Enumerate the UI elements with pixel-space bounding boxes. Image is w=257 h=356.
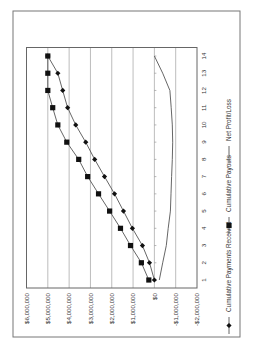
square-marker [139, 260, 144, 265]
period-tick-label: 5 [200, 209, 207, 213]
square-marker [76, 157, 81, 162]
period-tick-label: 3 [200, 243, 207, 247]
square-marker [96, 191, 101, 196]
value-axis-tick-labels: -$2,000,000-$1,000,000$0$1,000,000$2,000… [23, 292, 201, 326]
period-tick-label: 6 [200, 192, 207, 196]
period-tick-label: 4 [200, 226, 207, 230]
period-tick-label: 13 [200, 69, 207, 76]
square-marker [118, 226, 123, 231]
period-tick-label: 12 [200, 86, 207, 93]
value-tick-label: -$2,000,000 [193, 292, 200, 326]
square-marker [45, 53, 50, 58]
value-tick-label: $0 [151, 292, 158, 299]
value-tick-label: -$1,000,000 [172, 292, 179, 326]
value-tick-label: $3,000,000 [87, 292, 94, 324]
square-marker [55, 122, 60, 127]
period-tick-label: 11 [200, 104, 207, 111]
value-tick-label: $2,000,000 [108, 292, 115, 324]
legend-label: Cumulative Payouts [225, 155, 233, 212]
period-tick-label: 10 [200, 121, 207, 128]
value-tick-label: $6,000,000 [23, 292, 30, 324]
square-marker [85, 174, 90, 179]
period-tick-label: 2 [200, 260, 207, 264]
square-marker [226, 223, 231, 228]
period-tick-label: 7 [200, 174, 207, 178]
square-marker [45, 88, 50, 93]
legend-label: Net Profit/Loss [225, 99, 232, 141]
chart-container: -$2,000,000-$1,000,000$0$1,000,000$2,000… [0, 0, 257, 356]
period-tick-label: 8 [200, 157, 207, 161]
legend-label: Cumulative Payments Received [225, 221, 233, 312]
period-tick-label: 9 [200, 140, 207, 144]
period-tick-label: 1 [200, 278, 207, 282]
square-marker [107, 208, 112, 213]
value-tick-label: $4,000,000 [65, 292, 72, 324]
line-chart: -$2,000,000-$1,000,000$0$1,000,000$2,000… [0, 0, 257, 356]
square-marker [45, 71, 50, 76]
period-tick-label: 14 [200, 52, 207, 59]
square-marker [50, 105, 55, 110]
value-tick-label: $1,000,000 [129, 292, 136, 324]
value-tick-label: $5,000,000 [44, 292, 51, 324]
square-marker [64, 140, 69, 145]
square-marker [146, 277, 151, 282]
square-marker [128, 243, 133, 248]
